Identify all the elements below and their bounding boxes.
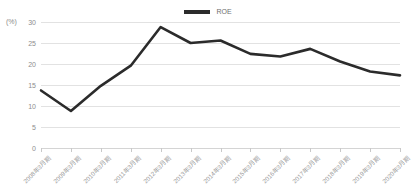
series-roe-svg [41, 22, 400, 148]
y-tick-label-20: 20 [14, 61, 36, 68]
y-tick-label-10: 10 [14, 103, 36, 110]
roe-line-chart: (%) ROE 051015202530 2008年3月期2009年3月期201… [0, 0, 416, 196]
chart-legend: ROE [0, 8, 416, 15]
legend-label-roe: ROE [216, 8, 231, 15]
legend-swatch-roe [184, 10, 210, 14]
y-tick-label-30: 30 [14, 19, 36, 26]
y-tick-label-25: 25 [14, 40, 36, 47]
series-roe-line [41, 27, 400, 111]
y-tick-label-15: 15 [14, 82, 36, 89]
y-tick-label-5: 5 [14, 124, 36, 131]
x-axis-labels: 2008年3月期2009年3月期2010年3月期2011年3月期2012年3月期… [0, 152, 416, 196]
y-tick-label-0: 0 [14, 145, 36, 152]
plot-area [41, 22, 400, 148]
